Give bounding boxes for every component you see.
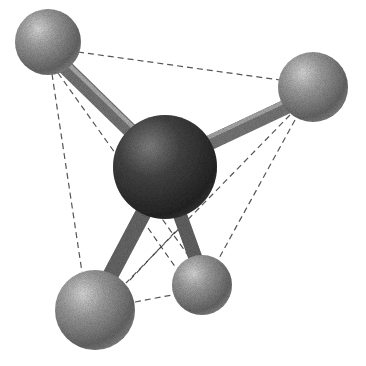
molecule-diagram bbox=[0, 0, 366, 366]
edge-tl-bl bbox=[52, 74, 82, 272]
atom-bottom-left bbox=[55, 270, 135, 350]
bond-top-left-hl bbox=[62, 58, 142, 136]
bond-top-right bbox=[205, 105, 290, 145]
edge-front-1 bbox=[148, 228, 176, 268]
atom-central bbox=[113, 115, 217, 219]
atoms bbox=[15, 9, 348, 350]
atom-bottom-right bbox=[172, 255, 232, 315]
atom-top-right bbox=[278, 52, 348, 122]
edge-bl-br bbox=[135, 295, 172, 302]
edge-tl-tr bbox=[78, 52, 280, 80]
atom-top-left bbox=[15, 9, 81, 75]
bond-top-left bbox=[60, 62, 140, 140]
